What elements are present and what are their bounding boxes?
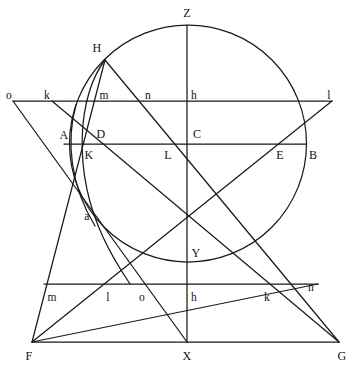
point-label-n1: n — [145, 90, 151, 102]
point-label-C: C — [193, 128, 201, 140]
point-label-X: X — [183, 350, 192, 362]
point-label-B: B — [309, 149, 317, 161]
line-segments-group — [13, 25, 339, 342]
point-label-D: D — [97, 128, 106, 140]
line-F-to-n — [32, 284, 318, 342]
point-label-h1: h — [191, 90, 197, 102]
line-F-to-l — [32, 101, 332, 342]
point-label-o2: o — [139, 292, 145, 304]
diagram-canvas — [0, 0, 358, 367]
point-label-l1: l — [327, 90, 330, 102]
point-label-k2: k — [264, 292, 270, 304]
point-label-o1: o — [6, 90, 12, 102]
point-label-K: K — [85, 149, 94, 161]
point-label-E: E — [276, 149, 284, 161]
point-label-l2: l — [106, 292, 109, 304]
point-label-H: H — [93, 42, 102, 54]
geometric-diagram: ZHokmnhlADCKLEBaYmlohknFXG — [0, 0, 358, 367]
point-label-Z: Z — [183, 7, 191, 19]
point-label-n2: n — [308, 282, 314, 294]
point-label-L: L — [164, 149, 172, 161]
point-label-Y: Y — [192, 247, 201, 259]
point-label-G: G — [338, 350, 347, 362]
point-label-F: F — [26, 350, 33, 362]
point-label-h2: h — [191, 292, 197, 304]
point-label-m2: m — [47, 292, 56, 304]
point-label-A: A — [60, 129, 69, 141]
line-H-to-F — [32, 60, 105, 342]
point-label-a: a — [84, 211, 89, 223]
point-label-m1: m — [99, 90, 108, 102]
point-label-k1: k — [44, 90, 50, 102]
